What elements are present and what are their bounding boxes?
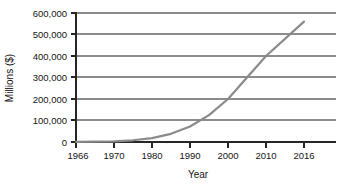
x-axis-label-1980: 1980 — [141, 150, 162, 161]
x-axis-label-1990: 1990 — [179, 150, 200, 161]
y-axis-label-0: 0 — [62, 137, 67, 148]
y-axis-label-500000: 500,000 — [33, 29, 67, 40]
y-axis-label-400000: 400,000 — [33, 51, 67, 62]
y-axis-label-100000: 100,000 — [33, 115, 67, 126]
x-axis-title: Year — [188, 169, 209, 180]
x-axis-label-1970: 1970 — [103, 150, 124, 161]
x-axis-label-2010: 2010 — [255, 150, 276, 161]
x-tick-marks — [76, 142, 304, 148]
y-axis-label-600000: 600,000 — [33, 8, 67, 19]
chart-canvas: 600,000 500,000 400,000 300,000 200,000 … — [0, 0, 343, 187]
x-axis-label-2000: 2000 — [217, 150, 238, 161]
y-axis-label-200000: 200,000 — [33, 94, 67, 105]
y-axis-title: Millions ($) — [4, 54, 15, 102]
line-chart-figure: 600,000 500,000 400,000 300,000 200,000 … — [0, 0, 343, 187]
y-axis-label-300000: 300,000 — [33, 72, 67, 83]
x-axis-label-1966: 1966 — [67, 150, 88, 161]
x-axis-label-2016: 2016 — [293, 150, 314, 161]
data-series-line — [76, 22, 304, 142]
